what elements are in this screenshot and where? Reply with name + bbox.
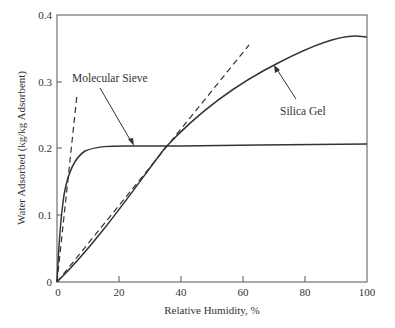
- x-tick-60: 60: [238, 286, 250, 298]
- molecular-sieve-arrow: [100, 88, 132, 143]
- molecular-sieve-label: Molecular Sieve: [72, 72, 148, 84]
- molecular-sieve-arrowhead-icon: [128, 138, 134, 146]
- molecular-sieve-tangent-line: [57, 95, 77, 282]
- plot-frame: [57, 15, 367, 282]
- y-tick-0.1: 0.1: [38, 209, 52, 221]
- chart: 0 0.1 0.2 0.3 0.4 0 20 40 60 80 100 Rela…: [0, 0, 395, 328]
- x-tick-0: 0: [55, 286, 61, 298]
- y-tick-0.4: 0.4: [38, 9, 52, 21]
- silica-gel-arrowhead-icon: [274, 65, 280, 73]
- x-tick-100: 100: [359, 286, 376, 298]
- y-axis: [57, 82, 62, 215]
- x-tick-20: 20: [114, 286, 126, 298]
- x-axis: [119, 276, 305, 282]
- y-tick-0.2: 0.2: [38, 142, 52, 154]
- x-tick-80: 80: [300, 286, 312, 298]
- silica-gel-label: Silica Gel: [280, 105, 326, 117]
- y-axis-label: Water Adsorbed (kg/kg Adsorbent): [15, 71, 28, 225]
- y-tick-0.3: 0.3: [38, 76, 52, 88]
- silica-gel-arrow: [276, 68, 296, 99]
- x-axis-label: Relative Humidity, %: [164, 304, 260, 316]
- molecular-sieve-curve: [57, 144, 367, 282]
- x-tick-40: 40: [176, 286, 188, 298]
- y-tick-0: 0: [47, 276, 53, 288]
